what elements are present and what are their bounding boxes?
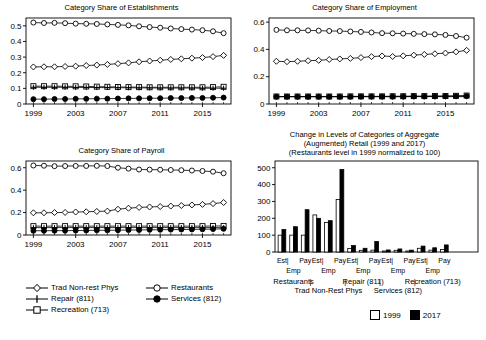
svg-text:300: 300 xyxy=(257,197,271,206)
svg-text:0.5: 0.5 xyxy=(10,22,22,31)
svg-text:Pay: Pay xyxy=(369,257,382,265)
svg-text:Restaurants: Restaurants xyxy=(273,277,314,286)
svg-text:0.2: 0.2 xyxy=(10,208,22,217)
circle-filled-icon xyxy=(146,294,168,304)
svg-text:0.4: 0.4 xyxy=(10,37,22,46)
svg-text:0.1: 0.1 xyxy=(10,84,22,93)
svg-text:100: 100 xyxy=(257,231,271,240)
svg-text:|: | xyxy=(426,257,428,265)
legend-label-trad-non-rest-phys: Trad Non-rest Phys xyxy=(51,282,118,293)
chart-panel-levels-change: Change in Levels of Categories of Aggreg… xyxy=(243,128,486,318)
chart-title-employment: Category Share of Employment xyxy=(243,3,486,12)
legend-item-repair-811[interactable]: Repair (811) xyxy=(26,293,136,304)
svg-text:Emp: Emp xyxy=(391,267,406,275)
svg-text:|: | xyxy=(322,257,324,265)
svg-text:0.2: 0.2 xyxy=(10,69,22,78)
legend-label-restaurants: Restaurants xyxy=(171,282,213,293)
svg-text:2003: 2003 xyxy=(67,240,85,249)
svg-text:0: 0 xyxy=(17,100,22,109)
svg-text:400: 400 xyxy=(257,180,271,189)
svg-text:2011: 2011 xyxy=(152,240,170,249)
circle-open-icon xyxy=(146,283,168,293)
legend-row-1: Trad Non-rest Phys Restaurants xyxy=(26,282,231,293)
legend-item-services-812[interactable]: Services (812) xyxy=(146,293,221,304)
svg-text:2003: 2003 xyxy=(67,109,85,118)
svg-text:|: | xyxy=(287,257,289,265)
svg-text:500: 500 xyxy=(257,164,271,173)
line-chart-payroll: 00.20.40.619992003200720112015 xyxy=(0,155,243,255)
svg-text:0.3: 0.3 xyxy=(10,53,22,62)
chart-title-payroll: Category Share of Payroll xyxy=(0,146,243,155)
chart-panel-payroll: Category Share of Payroll 00.20.40.61999… xyxy=(0,128,243,262)
svg-text:Repair (811): Repair (811) xyxy=(343,277,385,286)
svg-text:2011: 2011 xyxy=(395,109,413,118)
chart-panel-employment: Category Share of Employment 00.20.40.61… xyxy=(243,0,486,128)
bar-chart-levels-change: 0100200300400500Est|EmpPayEst|EmpPayEst|… xyxy=(243,157,486,312)
svg-text:0.4: 0.4 xyxy=(253,45,265,54)
svg-text:|: | xyxy=(391,257,393,265)
legend-label-recreation-713: Recreation (713) xyxy=(51,304,109,315)
legend-item-restaurants[interactable]: Restaurants xyxy=(146,282,213,293)
svg-text:Est: Est xyxy=(312,257,322,264)
svg-text:1999: 1999 xyxy=(24,109,42,118)
bar-legend-label-1999: 1999 xyxy=(383,311,401,320)
svg-text:0: 0 xyxy=(266,248,271,257)
svg-text:Pay: Pay xyxy=(438,257,451,265)
legend-label-repair-811: Repair (811) xyxy=(51,293,94,304)
svg-text:2015: 2015 xyxy=(437,109,455,118)
svg-text:2003: 2003 xyxy=(310,109,328,118)
svg-text:0: 0 xyxy=(260,100,265,109)
bar-legend-item-2017[interactable]: 2017 xyxy=(410,310,441,320)
svg-text:Emp: Emp xyxy=(356,267,371,275)
svg-text:|: | xyxy=(379,277,381,286)
svg-text:2007: 2007 xyxy=(109,109,127,118)
line-chart-legend: Trad Non-rest Phys Restaurants Repair (8… xyxy=(26,282,231,315)
svg-text:|: | xyxy=(309,277,311,286)
svg-text:2015: 2015 xyxy=(194,109,212,118)
filled-square-icon xyxy=(410,310,420,320)
svg-text:0.6: 0.6 xyxy=(10,164,22,173)
chart-title-establishments: Category Share of Establishments xyxy=(0,3,243,12)
open-square-icon xyxy=(370,310,380,320)
svg-text:Trad Non-Rest Phys: Trad Non-Rest Phys xyxy=(295,286,363,295)
svg-text:2015: 2015 xyxy=(194,240,212,249)
svg-text:1999: 1999 xyxy=(24,240,42,249)
svg-text:|: | xyxy=(344,277,346,286)
svg-text:0.4: 0.4 xyxy=(10,186,22,195)
svg-text:200: 200 xyxy=(257,214,271,223)
svg-text:Emp: Emp xyxy=(286,267,301,275)
chart-title-levels-change-line2: (Augmented) Retail (1999 and 2017) xyxy=(243,139,486,148)
legend-row-3: Recreation (713) xyxy=(26,304,231,315)
chart-panel-establishments: Category Share of Establishments 00.10.2… xyxy=(0,0,243,128)
svg-text:Est: Est xyxy=(346,257,356,264)
svg-text:|: | xyxy=(356,257,358,265)
svg-text:Services (812): Services (812) xyxy=(374,286,423,295)
bar-legend-item-1999[interactable]: 1999 xyxy=(370,310,401,320)
chart-title-levels-change-line1: Change in Levels of Categories of Aggreg… xyxy=(243,130,486,139)
svg-text:2007: 2007 xyxy=(352,109,370,118)
svg-text:Pay: Pay xyxy=(299,257,312,265)
chart-title-levels-change-line3: (Restaurants level in 1999 normalized to… xyxy=(243,148,486,157)
line-chart-employment: 00.20.40.619992003200720112015 xyxy=(243,12,486,124)
svg-text:Pay: Pay xyxy=(334,257,347,265)
legend-row-2: Repair (811) Services (812) xyxy=(26,293,231,304)
svg-text:1999: 1999 xyxy=(267,109,285,118)
diamond-open-icon xyxy=(26,283,48,293)
svg-text:Emp: Emp xyxy=(426,267,441,275)
bar-legend-label-2017: 2017 xyxy=(423,311,441,320)
bar-chart-legend: 1999 2017 xyxy=(370,310,450,320)
square-open-icon xyxy=(26,305,48,315)
svg-text:0.2: 0.2 xyxy=(253,72,265,81)
legend-item-recreation-713[interactable]: Recreation (713) xyxy=(26,304,136,315)
svg-text:2011: 2011 xyxy=(152,109,170,118)
svg-text:0.6: 0.6 xyxy=(253,18,265,27)
svg-text:Est: Est xyxy=(416,257,426,264)
plus-icon xyxy=(26,294,48,304)
svg-text:Pay: Pay xyxy=(404,257,417,265)
svg-text:|: | xyxy=(414,277,416,286)
legend-item-trad-non-rest-phys[interactable]: Trad Non-rest Phys xyxy=(26,282,136,293)
svg-text:Est: Est xyxy=(381,257,391,264)
legend-label-services-812: Services (812) xyxy=(171,293,221,304)
line-chart-establishments: 00.10.20.30.40.519992003200720112015 xyxy=(0,12,243,124)
svg-text:Emp: Emp xyxy=(321,267,336,275)
